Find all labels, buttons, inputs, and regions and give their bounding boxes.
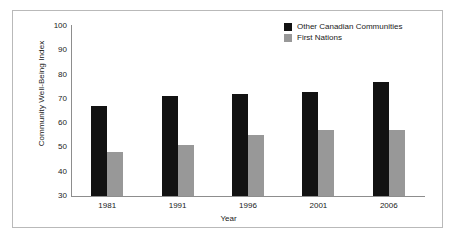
bar [248, 135, 264, 196]
y-tick-label: 80 [33, 71, 67, 79]
bar [107, 152, 123, 196]
bar-group [283, 26, 353, 196]
bar-group [213, 26, 283, 196]
bar [373, 82, 389, 196]
bar [232, 94, 248, 196]
y-tick-label: 50 [33, 143, 67, 151]
y-axis-tick-labels: 10090807060504030 [29, 11, 67, 211]
bar-group [354, 26, 424, 196]
x-axis-line [71, 196, 425, 197]
legend-swatch-icon [284, 34, 292, 42]
bar [91, 106, 107, 196]
plot-area [72, 26, 424, 196]
chart-frame: Community Well-Being Index 1009080706050… [12, 10, 443, 228]
bar [302, 92, 318, 196]
x-tick-label: 2001 [283, 201, 353, 210]
legend-swatch-icon [284, 23, 292, 31]
bar [389, 130, 405, 196]
chart-legend: Other Canadian CommunitiesFirst Nations [284, 22, 402, 42]
legend-item: First Nations [284, 33, 402, 42]
x-tick-label: 2006 [354, 201, 424, 210]
y-tick-label: 70 [33, 95, 67, 103]
x-tick-label: 1981 [72, 201, 142, 210]
y-tick-label: 100 [33, 22, 67, 30]
legend-label: First Nations [297, 33, 342, 42]
y-tick-label: 30 [33, 192, 67, 200]
bar-group [142, 26, 212, 196]
bar [318, 130, 334, 196]
bar [162, 96, 178, 196]
x-tick-label: 1996 [213, 201, 283, 210]
legend-label: Other Canadian Communities [297, 22, 402, 31]
y-tick-label: 40 [33, 168, 67, 176]
y-tick-label: 60 [33, 119, 67, 127]
bar-group [72, 26, 142, 196]
x-tick-label: 1991 [143, 201, 213, 210]
x-axis-title: Year [13, 214, 444, 223]
legend-item: Other Canadian Communities [284, 22, 402, 31]
y-tick-label: 90 [33, 46, 67, 54]
bar [178, 145, 194, 196]
